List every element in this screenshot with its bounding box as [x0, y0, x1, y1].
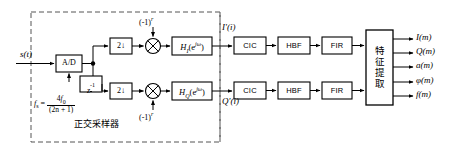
- feature-extraction-label: 特 征 提 取: [366, 45, 393, 89]
- fir-bottom-label: FIR: [322, 87, 352, 95]
- sampling-rate-equals: =: [41, 99, 46, 108]
- sampling-rate-fraction: 4f0 (2n + 1): [47, 95, 75, 113]
- feature-char-3: 提: [366, 67, 393, 78]
- filter-q-label: HQ(ejω): [172, 86, 212, 99]
- adc-label: A/D: [56, 59, 82, 67]
- output-label-i: I(m): [416, 33, 432, 42]
- quadrature-sampler-caption: 正交采样器: [74, 120, 119, 129]
- feature-char-4: 取: [366, 78, 393, 89]
- sampling-rate-subscript: s: [36, 103, 38, 109]
- sampling-rate-formula: fs = 4f0 (2n + 1): [34, 95, 75, 113]
- sampling-rate-denominator: (2n + 1): [47, 105, 75, 114]
- multiplier-bottom-control-label: (-1)r: [139, 111, 153, 122]
- sampling-rate-numerator: 4f0: [47, 95, 75, 105]
- multiplier-top-control-exponent: r: [151, 16, 153, 22]
- wire-delay-to-downsampler-bottom: [102, 84, 108, 91]
- cic-bottom-label: CIC: [234, 87, 266, 95]
- delay-exponent: -1: [90, 81, 95, 87]
- multiplier-top-control-base: (-1): [139, 18, 151, 27]
- i-path-label: I'(i): [222, 23, 235, 32]
- wire-node-to-downsampler-top: [93, 46, 108, 64]
- hbf-bottom-label: HBF: [278, 87, 310, 95]
- filter-i-arg-close: ): [201, 42, 204, 52]
- quadrature-sampler-dashed-boundary: [31, 12, 220, 142]
- feature-char-1: 特: [366, 45, 393, 56]
- output-label-phi: φ(m): [416, 76, 433, 85]
- filter-q-arg-close: ): [202, 87, 205, 97]
- hbf-top-label: HBF: [278, 42, 310, 50]
- quadrature-sampling-block-diagram: s(t) A/D z-1 2↓ 2↓ (-1)r (-1)r HI(ejω) H…: [0, 0, 450, 155]
- cic-top-label: CIC: [234, 42, 266, 50]
- multiplier-top-control-label: (-1)r: [139, 16, 153, 27]
- delay-label: z-1: [80, 80, 102, 96]
- fir-top-label: FIR: [322, 42, 352, 50]
- output-label-q: Q(m): [416, 47, 435, 56]
- sampling-rate-numerator-sub: 0: [63, 99, 66, 105]
- downsampler-bottom-label: 2↓: [110, 87, 132, 95]
- feature-char-2: 征: [366, 56, 393, 67]
- downsampler-top-label: 2↓: [110, 42, 132, 50]
- filter-i-arg-open: (e: [188, 42, 195, 52]
- output-label-f: f(m): [416, 90, 431, 99]
- filter-i-label: HI(ejω): [172, 41, 212, 54]
- multiplier-bottom-control-exponent: r: [151, 111, 153, 117]
- q-path-label: Q'(i): [222, 97, 239, 106]
- output-label-a: a(m): [416, 61, 433, 70]
- multiplier-bottom-control-base: (-1): [139, 113, 151, 122]
- input-signal-label: s(t): [20, 50, 32, 59]
